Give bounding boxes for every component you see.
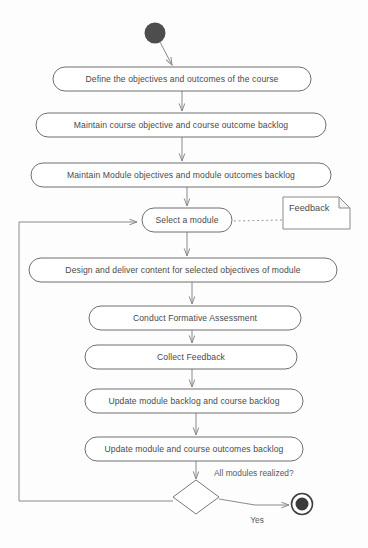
activity-label-select-a-module: Select a module: [155, 215, 218, 225]
note-fold-corner-icon: [339, 197, 350, 208]
note-label-feedback: Feedback: [289, 203, 330, 213]
activity-label-define-objectives: Define the objectives and outcomes of th…: [85, 74, 278, 84]
activity-node-update-module-course-backlog[interactable]: Update module backlog and course backlog: [85, 389, 303, 413]
decision-node-all-modules-realized[interactable]: All modules realized?: [173, 468, 294, 514]
decision-question-label: All modules realized?: [214, 468, 294, 478]
end-node-inner-circle: [296, 498, 309, 511]
edge-select-to-feedback-note: [234, 220, 282, 221]
uml-activity-diagram: Define the objectives and outcomes of th…: [0, 0, 368, 548]
activity-label-update-module-course-backlog: Update module backlog and course backlog: [108, 396, 279, 406]
feedback-note[interactable]: Feedback: [283, 197, 350, 229]
decision-diamond-shape: [173, 480, 219, 514]
start-node-circle: [145, 23, 166, 44]
edge-guard-label-yes: Yes: [250, 515, 264, 525]
activity-node-define-objectives[interactable]: Define the objectives and outcomes of th…: [53, 67, 311, 91]
activity-label-update-outcomes-backlog: Update module and course outcomes backlo…: [105, 444, 284, 454]
activity-label-collect-feedback: Collect Feedback: [157, 352, 226, 362]
activity-label-maintain-module-backlog: Maintain Module objectives and module ou…: [67, 170, 295, 180]
activity-label-design-deliver-content: Design and deliver content for selected …: [65, 265, 300, 275]
edge-start-to-define: [160, 42, 172, 65]
activity-node-select-a-module[interactable]: Select a module: [142, 208, 232, 232]
activity-node-collect-feedback[interactable]: Collect Feedback: [85, 345, 297, 369]
activity-diagram-canvas: Define the objectives and outcomes of th…: [0, 0, 368, 548]
activity-label-conduct-formative-assessment: Conduct Formative Assessment: [133, 313, 258, 323]
activity-node-maintain-module-backlog[interactable]: Maintain Module objectives and module ou…: [31, 163, 331, 187]
edge-decision-to-end: [219, 499, 289, 505]
activity-node-design-deliver-content[interactable]: Design and deliver content for selected …: [29, 258, 337, 282]
activity-node-update-outcomes-backlog[interactable]: Update module and course outcomes backlo…: [85, 437, 303, 461]
activity-label-maintain-course-backlog: Maintain course objective and course out…: [74, 120, 289, 130]
activity-node-maintain-course-backlog[interactable]: Maintain course objective and course out…: [36, 113, 326, 137]
start-node: [145, 23, 166, 44]
end-node: [292, 494, 313, 515]
activity-node-conduct-formative-assessment[interactable]: Conduct Formative Assessment: [89, 306, 301, 330]
